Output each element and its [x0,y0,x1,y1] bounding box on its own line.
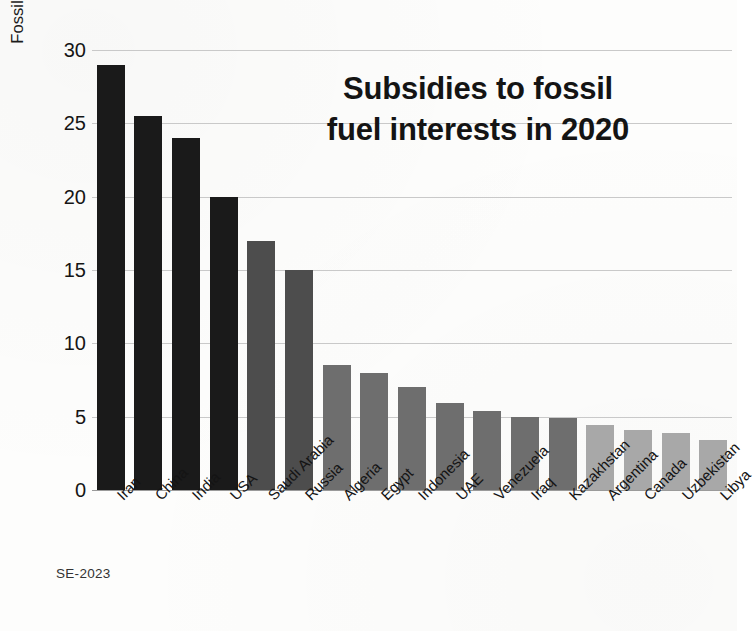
y-tick-label-20: 20 [44,187,86,207]
bar-saudi-arabia[interactable] [247,241,275,490]
y-tick-label-30: 30 [44,40,86,60]
y-tick-label-10: 10 [44,333,86,353]
bar-usa[interactable] [210,197,238,490]
chart-title-line-1: Subsidies to fossil [268,68,688,109]
y-tick-label-0: 0 [44,480,86,500]
bar-iran[interactable] [97,65,125,490]
y-tick-label-25: 25 [44,113,86,133]
bar-china[interactable] [134,116,162,490]
chart-title-line-2: fuel interests in 2020 [268,109,688,150]
chart-title: Subsidies to fossilfuel interests in 202… [268,68,688,150]
y-tick-label-15: 15 [44,260,86,280]
bar-india[interactable] [172,138,200,490]
y-tick-label-5: 5 [44,407,86,427]
x-axis-tick-labels: IranChinaIndiaUSASaudi ArabiaRussiaAlger… [92,492,732,602]
credit-watermark: SE-2023 [56,566,111,581]
y-axis-tick-labels: 051015202530 [22,0,86,631]
